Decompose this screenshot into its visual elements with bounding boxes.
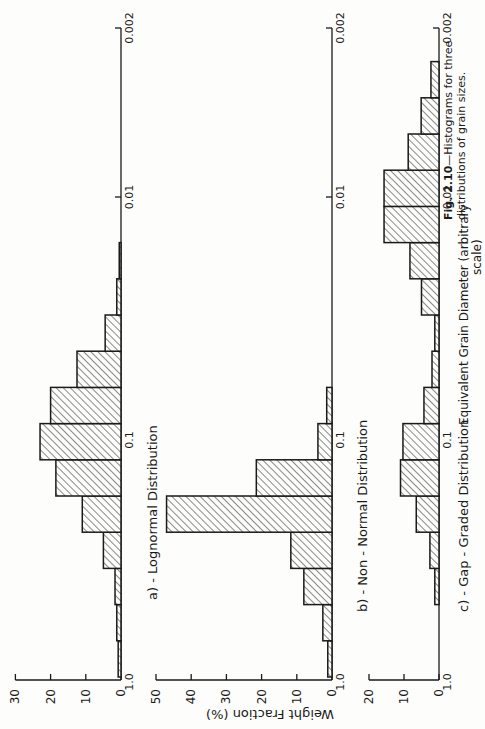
histogram-figure: Fig. 2.10—Histograms for three distribut… [0,0,485,729]
panel-a-title: a) - Lognormal Distribution [145,425,160,600]
histogram-bar [103,532,121,568]
svg-text:1.0: 1.0 [123,673,136,691]
value-tick-label: 40 [184,689,198,704]
histogram-bar [318,424,332,460]
svg-text:20: 20 [44,689,58,704]
histogram-bar [403,424,439,460]
diameter-tick-label: 0.01 [441,185,454,210]
svg-text:0: 0 [432,689,446,697]
value-tick-label: 10 [79,689,93,704]
histogram-bar [435,315,439,351]
histogram-bar [167,496,332,532]
histogram-bar [401,460,440,496]
panel-c: 1.00.10.010.00201020 [362,12,454,704]
diameter-tick-label: 0.1 [123,431,136,449]
value-tick-label: 10 [397,689,411,704]
svg-text:Weight Fraction (%): Weight Fraction (%) [206,707,334,722]
svg-text:10: 10 [79,689,93,704]
histogram-bar [384,170,439,206]
x-axis-label: Equivalent Grain Diameter (arbitrary sca… [457,204,484,425]
value-tick-label: 0 [432,689,446,697]
value-tick-label: 50 [149,689,163,704]
svg-text:0.002: 0.002 [441,12,454,44]
panel-b-title: b) - Non - Normal Distribution [355,420,370,612]
histogram-bar [304,568,332,604]
svg-text:0: 0 [325,689,339,697]
value-tick-label: 0 [325,689,339,697]
diameter-tick-label: 1.0 [441,673,454,691]
diameter-tick-label: 0.002 [123,12,136,44]
histogram-bar [118,641,121,677]
value-tick-label: 0 [114,689,128,697]
histogram-bar [256,460,332,496]
svg-text:0.002: 0.002 [123,12,136,44]
value-tick-label: 20 [255,689,269,704]
svg-text:0.002: 0.002 [334,12,347,44]
svg-text:c) - Gap - Graded Distribution: c) - Gap - Graded Distribution [456,420,471,612]
svg-text:30: 30 [219,689,233,704]
histogram-bar [431,62,439,98]
histogram-bar [430,532,439,568]
svg-text:40: 40 [184,689,198,704]
histogram-bar [117,605,121,641]
value-tick-label: 30 [8,689,22,704]
caption-line2: distributions of grain sizes. [455,72,468,220]
histogram-bar [408,134,439,170]
histogram-bar [119,243,121,279]
svg-text:0.01: 0.01 [123,185,136,210]
histogram-bar [328,641,332,677]
value-tick-label: 20 [44,689,58,704]
svg-text:50: 50 [149,689,163,704]
svg-text:a) - Lognormal Distribution: a) - Lognormal Distribution [145,425,160,600]
histogram-bar [327,387,332,423]
svg-text:0.1: 0.1 [441,431,454,449]
svg-text:0.1: 0.1 [334,431,347,449]
histogram-bar [105,315,121,351]
histogram-bar [432,351,439,387]
diameter-tick-label: 0.01 [123,185,136,210]
diameter-tick-label: 0.01 [334,185,347,210]
value-tick-label: 20 [362,689,376,704]
diameter-tick-label: 0.1 [441,431,454,449]
histogram-bar [384,206,439,242]
diameter-tick-label: 1.0 [123,673,136,691]
histogram-bar [323,605,332,641]
histogram-bar [117,279,121,315]
diameter-tick-label: 0.1 [334,431,347,449]
svg-text:0.01: 0.01 [441,185,454,210]
diameter-tick-label: 0.002 [334,12,347,44]
histogram-chart: Fig. 2.10—Histograms for three distribut… [0,0,485,729]
svg-text:Equivalent Grain Diameter: Equivalent Grain Diameter (arbitrary [457,204,471,425]
histogram-bar [115,568,121,604]
svg-text:20: 20 [255,689,269,704]
svg-text:0.1: 0.1 [123,431,136,449]
y-axis-label: Weight Fraction (%) [206,707,334,722]
svg-text:10: 10 [397,689,411,704]
value-tick-label: 10 [290,689,304,704]
histogram-bar [77,351,121,387]
histogram-bar [291,532,332,568]
histogram-bar [51,387,121,423]
panel-a: 1.00.10.010.0020102030 [8,12,136,704]
value-tick-label: 30 [219,689,233,704]
histogram-bar [422,279,440,315]
svg-text:20: 20 [362,689,376,704]
histogram-bar [416,496,439,532]
svg-text:1.0: 1.0 [441,673,454,691]
histogram-bar [410,243,439,279]
histogram-bar [424,387,439,423]
diameter-tick-label: 0.002 [441,12,454,44]
histogram-bar [40,424,121,460]
svg-text:b) - Non - Normal Distribution: b) - Non - Normal Distribution [355,420,370,612]
svg-text:1.0: 1.0 [334,673,347,691]
svg-text:scale): scale) [470,239,484,275]
svg-text:30: 30 [8,689,22,704]
diameter-tick-label: 1.0 [334,673,347,691]
histogram-bar [435,568,439,604]
caption-text: —Histograms for three [442,40,455,165]
panel-b: 1.00.10.010.00201020304050 [149,12,347,704]
histogram-bar [421,98,439,134]
histogram-bar [82,496,121,532]
panel-c-title: c) - Gap - Graded Distribution [456,420,471,612]
svg-text:10: 10 [290,689,304,704]
